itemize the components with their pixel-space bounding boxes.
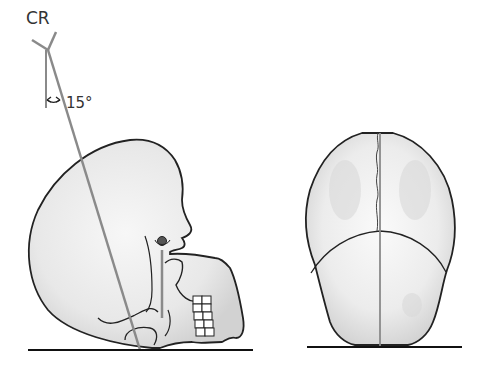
- frontal-shade-lower: [402, 293, 422, 317]
- angle-arrow-left-icon: [47, 97, 51, 102]
- central-ray-y-right-arm: [48, 32, 56, 50]
- lateral-skull-teeth: [193, 296, 214, 336]
- frontal-view: [306, 133, 462, 348]
- central-ray-label: CR: [26, 8, 50, 28]
- angle-label: 15°: [66, 94, 93, 112]
- angle-arrow-right-icon: [56, 97, 60, 102]
- radiography-diagram: CR 15°: [0, 0, 482, 365]
- frontal-shade-right: [399, 160, 431, 220]
- lateral-view: CR 15°: [26, 8, 253, 350]
- frontal-shade-left: [329, 160, 361, 220]
- central-ray-y-left-arm: [32, 40, 48, 50]
